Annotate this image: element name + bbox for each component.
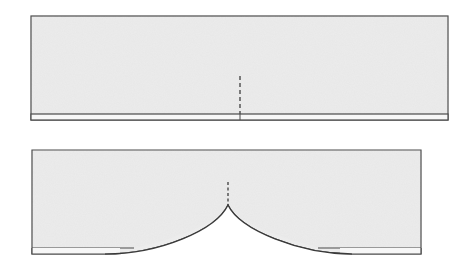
curved-panel: [32, 150, 421, 254]
flat-panel: [31, 16, 448, 120]
diagram-canvas: [0, 0, 475, 263]
curved-panel-hem-right-band: [340, 248, 421, 254]
curved-panel-hem-left-band: [32, 248, 120, 254]
